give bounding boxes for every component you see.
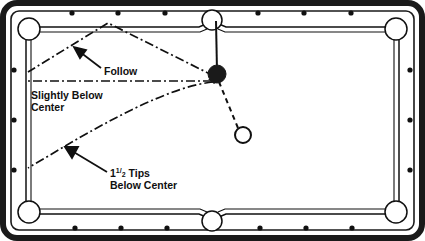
- diagram-canvas: Follow Slightly Below Center 11/2 Tips B…: [0, 0, 425, 241]
- pocket-bottom-right: [385, 201, 407, 223]
- rail-diamond-right-2: [407, 117, 412, 122]
- pocket-bottom-middle: [202, 211, 222, 231]
- rail-diamond-top-4: [255, 10, 260, 15]
- rail-diamond-bottom-6: [349, 225, 354, 230]
- pocket-top-right: [385, 18, 407, 40]
- cue-ball: [235, 127, 251, 143]
- rail-diamond-top-1: [69, 10, 74, 15]
- rail-diamond-left-2: [11, 117, 16, 122]
- rail-diamond-bottom-3: [164, 225, 169, 230]
- rail-diamond-bottom-5: [303, 225, 308, 230]
- rail-diamond-bottom-1: [72, 225, 77, 230]
- rail-diamond-right-3: [407, 167, 412, 172]
- rail-diamond-left-1: [11, 67, 16, 72]
- pocket-top-left: [18, 18, 40, 40]
- pool-table-diagram: Follow Slightly Below Center 11/2 Tips B…: [0, 0, 425, 241]
- label-slightly-below-center-line2: Center: [31, 101, 64, 113]
- rail-diamond-top-3: [162, 10, 167, 15]
- pocket-top-middle: [202, 10, 222, 30]
- rail-diamond-bottom-4: [257, 225, 262, 230]
- table-frame-group: [3, 3, 422, 238]
- rail-diamond-right-1: [407, 67, 412, 72]
- label-tips-word: Tips: [126, 167, 150, 179]
- table-rail-band: [11, 11, 414, 230]
- label-slightly-below-center-line1: Slightly Below: [31, 89, 104, 101]
- cue-stick-line: [216, 21, 217, 71]
- rail-diamond-top-2: [115, 10, 120, 15]
- rail-diamond-top-5: [301, 10, 306, 15]
- rail-diamond-bottom-2: [118, 225, 123, 230]
- label-tips-line2: Below Center: [110, 179, 177, 191]
- label-follow: Follow: [104, 65, 138, 77]
- rail-diamond-top-6: [348, 10, 353, 15]
- rail-diamond-left-3: [11, 167, 16, 172]
- pocket-bottom-left: [18, 201, 40, 223]
